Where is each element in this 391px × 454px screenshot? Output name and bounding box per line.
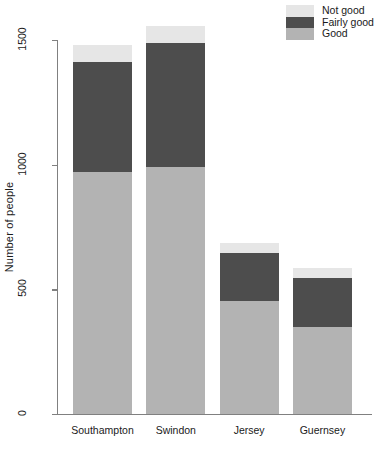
- x-axis-line: [57, 414, 372, 415]
- bar-segment-jersey-not-good: [220, 243, 279, 253]
- y-tick-1000: [52, 165, 57, 166]
- y-tick-500: [52, 289, 57, 290]
- y-axis-label: Number of people: [0, 0, 18, 454]
- bar-segment-guernsey-not-good: [293, 268, 352, 278]
- stacked-bar-chart: Not good Fairly good Good Number of peop…: [0, 0, 391, 454]
- bar-segment-guernsey-fairly-good: [293, 278, 352, 327]
- plot-area: 050010001500 SouthamptonSwindonJerseyGue…: [57, 0, 391, 454]
- bar-segment-swindon-not-good: [146, 26, 205, 42]
- y-tick-0: [52, 414, 57, 415]
- bar-segment-swindon-good: [146, 167, 205, 414]
- bar-segment-southampton-fairly-good: [73, 62, 132, 172]
- y-tick-label-1500: 1500: [16, 22, 28, 56]
- bar-swindon: [146, 26, 205, 414]
- y-tick-1500: [52, 40, 57, 41]
- y-tick-label-1000: 1000: [16, 147, 28, 181]
- bar-segment-guernsey-good: [293, 327, 352, 414]
- bar-segment-swindon-fairly-good: [146, 43, 205, 168]
- x-tick-label-guernsey: Guernsey: [279, 424, 366, 436]
- bar-segment-jersey-fairly-good: [220, 253, 279, 300]
- y-axis-line: [57, 40, 58, 414]
- bar-jersey: [220, 243, 279, 414]
- bar-segment-southampton-not-good: [73, 45, 132, 62]
- bar-southampton: [73, 45, 132, 414]
- y-tick-label-500: 500: [16, 271, 28, 305]
- bar-segment-southampton-good: [73, 172, 132, 414]
- y-tick-label-0: 0: [16, 396, 28, 430]
- bar-segment-jersey-good: [220, 301, 279, 414]
- bar-guernsey: [293, 268, 352, 414]
